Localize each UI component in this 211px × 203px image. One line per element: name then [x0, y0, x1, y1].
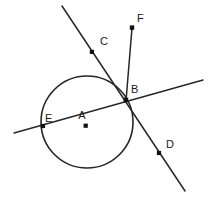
geometry-canvas: A B C D E F: [0, 0, 211, 203]
point-label-b: B: [131, 83, 138, 95]
geometry-figure: A B C D E F: [0, 0, 211, 203]
point-label-f: F: [137, 12, 144, 24]
point-label-c: C: [100, 35, 108, 47]
line-c-b-d: [62, 6, 185, 191]
point-dot-c: [90, 50, 94, 54]
point-label-a: A: [78, 109, 86, 121]
point-label-d: D: [166, 138, 174, 150]
point-dot-b: [124, 98, 129, 103]
point-dot-a: [84, 124, 88, 128]
point-label-e: E: [45, 112, 52, 124]
point-dot-f: [130, 25, 134, 29]
point-dot-e: [41, 124, 45, 128]
point-dot-d: [157, 151, 161, 155]
